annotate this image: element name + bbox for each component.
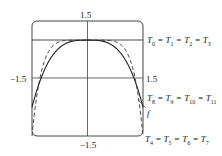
plot-area: [0, 0, 222, 156]
y-top-tick-label: 1.5: [80, 10, 91, 20]
x-left-tick-label: −1.5: [10, 74, 26, 84]
x-right-tick-label: 1.5: [146, 74, 157, 84]
legend-t0-t3: T0 = T1 = T2 = T3: [147, 35, 211, 49]
y-bottom-tick-label: −1.5: [80, 140, 96, 150]
legend-t4-t7: T4 = T5 = T6 = T7: [145, 134, 209, 148]
legend-t8-t11: T8 = T9 = T10 = T11: [147, 93, 217, 107]
f-leader-line: [138, 100, 146, 108]
legend-f: f: [147, 108, 150, 118]
